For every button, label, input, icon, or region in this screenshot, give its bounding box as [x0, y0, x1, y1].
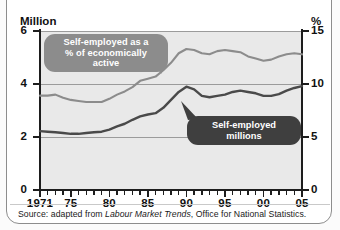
percent-callout-line2: % of economically active	[65, 48, 147, 69]
source-divider	[10, 204, 330, 205]
percent-callout-line1: Self-employed as a	[63, 37, 148, 47]
source-suffix: , Office for National Statistics.	[191, 209, 306, 219]
source-publication: Labour Market Trends	[105, 209, 191, 219]
percent-series-callout: Self-employed as a % of economically act…	[44, 34, 168, 72]
source-note: Source: adapted from Labour Market Trend…	[18, 209, 306, 219]
figure-root: Million % 6 4 2 0 15 10 5 0 197175808590…	[0, 0, 340, 230]
chart-area: Million % 6 4 2 0 15 10 5 0 197175808590…	[0, 0, 340, 230]
source-prefix: Source: adapted from	[18, 209, 105, 219]
millions-series-callout: Self-employed millions	[187, 116, 301, 145]
